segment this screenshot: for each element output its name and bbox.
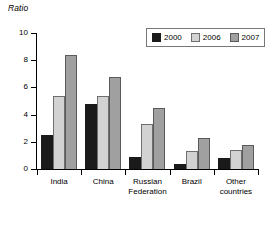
- y-axis-title: Ratio: [8, 3, 28, 13]
- legend-swatch-icon-2000: [152, 33, 161, 42]
- x-axis-tick: [125, 170, 126, 175]
- x-axis-category-label: Other countries: [214, 177, 258, 197]
- x-axis-line: [36, 169, 259, 170]
- bar-2007: [153, 108, 165, 169]
- legend-label-2006: 2006: [203, 34, 221, 42]
- x-axis-tick: [258, 170, 259, 175]
- y-axis-tick: [31, 33, 36, 34]
- legend-item-2007: 2007: [230, 33, 260, 42]
- bar-2007: [198, 138, 210, 169]
- x-axis-category-label: Russian Federation: [125, 177, 169, 197]
- bar-group: [81, 33, 125, 169]
- bar-2007: [109, 77, 121, 169]
- y-axis-tick-label: 6: [8, 83, 28, 91]
- bar-2006: [141, 124, 153, 169]
- legend-label-2007: 2007: [242, 34, 260, 42]
- bar-2000: [85, 104, 97, 169]
- x-axis-tick: [37, 170, 38, 175]
- bar-2000: [218, 158, 230, 169]
- x-axis-category-label: India: [37, 177, 81, 187]
- legend-item-2006: 2006: [191, 33, 221, 42]
- bar-2007: [242, 145, 254, 169]
- chart-legend: 2000 2006 2007: [146, 28, 265, 47]
- bar-2000: [174, 164, 186, 169]
- bar-2000: [41, 135, 53, 169]
- y-axis-tick-label: 10: [8, 29, 28, 37]
- y-axis-tick-label: 2: [8, 138, 28, 146]
- y-axis-tick: [31, 87, 36, 88]
- x-axis-tick: [214, 170, 215, 175]
- y-axis-tick-label: 8: [8, 56, 28, 64]
- legend-label-2000: 2000: [164, 34, 182, 42]
- bar-2000: [129, 157, 141, 169]
- legend-swatch-icon-2007: [230, 33, 239, 42]
- bar-2006: [186, 151, 198, 169]
- bar-group: [37, 33, 81, 169]
- bar-group: [170, 33, 214, 169]
- y-axis-tick: [31, 115, 36, 116]
- y-axis-tick-label: 0: [8, 165, 28, 173]
- x-axis-category-label: Brazil: [170, 177, 214, 187]
- y-axis-tick-label: 4: [8, 111, 28, 119]
- x-axis-tick: [170, 170, 171, 175]
- bar-group: [125, 33, 169, 169]
- y-axis-tick: [31, 142, 36, 143]
- legend-swatch-icon-2006: [191, 33, 200, 42]
- legend-item-2000: 2000: [152, 33, 182, 42]
- x-axis-tick: [81, 170, 82, 175]
- y-axis-tick: [31, 169, 36, 170]
- bar-2006: [53, 96, 65, 169]
- bar-2007: [65, 55, 77, 169]
- y-axis-tick: [31, 60, 36, 61]
- plot-area: [37, 33, 258, 169]
- bar-chart: Ratio 0246810 IndiaChinaRussian Federati…: [0, 0, 280, 232]
- bar-2006: [97, 96, 109, 169]
- x-axis-category-label: China: [81, 177, 125, 187]
- bar-2006: [230, 150, 242, 169]
- bar-group: [214, 33, 258, 169]
